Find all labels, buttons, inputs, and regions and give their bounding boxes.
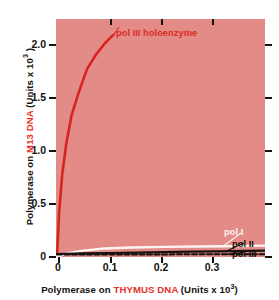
x-tick-mark-top-0-3 bbox=[212, 19, 214, 25]
y-tick-mark-right-0 bbox=[265, 256, 272, 258]
y-tick-mark-1-5 bbox=[49, 97, 56, 99]
y-axis-title-exponent: 3 bbox=[21, 54, 30, 58]
chart-figure: pol III holoenzyme pol I pol II pol III … bbox=[0, 0, 279, 300]
series-line-pol-iii-holoenzyme bbox=[57, 35, 113, 257]
plot-svg bbox=[56, 19, 265, 257]
series-label-pol-iii: pol III bbox=[232, 249, 256, 259]
y-tick-mark-right-1-5 bbox=[265, 97, 272, 99]
x-axis-title-suffix-post: ) bbox=[235, 284, 238, 295]
x-axis-title-highlight: THYMUS DNA bbox=[113, 284, 178, 295]
y-tick-mark-right-0-5 bbox=[265, 203, 272, 205]
y-tick-mark-1-0 bbox=[49, 150, 56, 152]
y-tick-mark-0 bbox=[49, 256, 56, 258]
x-tick-mark-top-0-2 bbox=[161, 19, 163, 25]
x-tick-mark-top-0-1 bbox=[110, 19, 112, 25]
y-tick-mark-2-0 bbox=[49, 44, 56, 46]
x-tick-label-0-3: 0.3 bbox=[198, 262, 226, 273]
x-axis-title: Polymerase on THYMUS DNA (Units x 103) bbox=[0, 282, 279, 295]
y-axis-title-prefix: Polymerase on bbox=[24, 153, 35, 225]
x-tick-label-0-1: 0.1 bbox=[96, 262, 124, 273]
x-tick-label-0-2: 0.2 bbox=[147, 262, 175, 273]
series-label-pol-iii-holoenzyme: pol III holoenzyme bbox=[116, 28, 197, 38]
y-axis-title-suffix-post: ) bbox=[24, 48, 35, 54]
x-axis-title-prefix: Polymerase on bbox=[41, 284, 113, 295]
series-label-pol-i: pol I bbox=[224, 227, 243, 237]
x-axis-title-suffix-pre: (Units x 10 bbox=[178, 284, 230, 295]
y-tick-mark-0-5 bbox=[49, 203, 56, 205]
y-axis-title-highlight: M13 DNA bbox=[24, 110, 35, 152]
y-tick-mark-right-1-0 bbox=[265, 150, 272, 152]
y-tick-mark-right-2-0 bbox=[265, 44, 272, 46]
x-tick-label-0: 0 bbox=[44, 262, 72, 273]
plot-area: pol III holoenzyme bbox=[56, 19, 265, 257]
y-axis-title-suffix-pre: (Units x 10 bbox=[24, 58, 35, 110]
y-axis-title: Polymerase on M13 DNA (Units x 103 ) bbox=[21, 17, 34, 257]
